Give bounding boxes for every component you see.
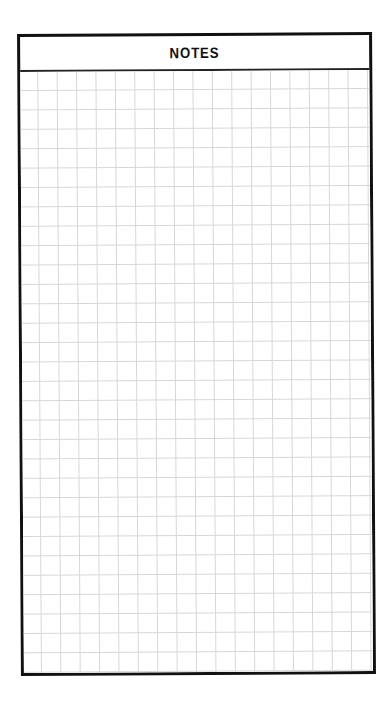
grid-writing-area[interactable] <box>20 70 373 673</box>
page-title: NOTES <box>170 44 220 61</box>
notes-sheet: NOTES <box>17 32 376 676</box>
notes-header: NOTES <box>20 35 369 72</box>
